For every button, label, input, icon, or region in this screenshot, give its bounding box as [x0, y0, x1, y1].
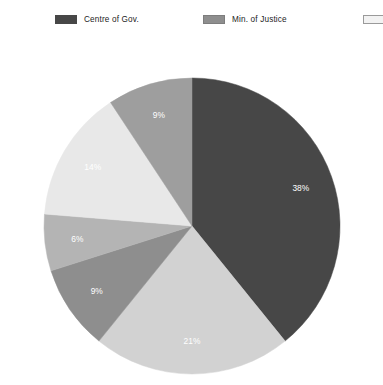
pie-slice-value-label: 21%: [184, 336, 201, 346]
legend-item-label: Centre of Gov.: [84, 15, 139, 24]
legend-item-centre-of-gov[interactable]: Centre of Gov.: [55, 12, 203, 27]
legend-swatch-icon: [203, 15, 225, 24]
pie-plot-area: 38%21%9%6%14%9%: [31, 76, 353, 376]
pie-slice-value-label: 9%: [91, 286, 104, 296]
pie-slices: [44, 78, 340, 374]
pie-chart-figure: Centre of Gov. Min. of Justice Non-depar…: [0, 0, 383, 385]
pie-slice-value-label: 9%: [153, 110, 166, 120]
legend-swatch-icon: [55, 15, 77, 24]
pie-svg: 38%21%9%6%14%9%: [31, 76, 353, 376]
chart-legend: Centre of Gov. Min. of Justice Non-depar…: [55, 12, 365, 27]
pie-slice-value-label: 6%: [71, 234, 84, 244]
legend-item-non-departmental[interactable]: Non-departmental: [363, 12, 383, 27]
legend-item-min-of-justice[interactable]: Min. of Justice: [203, 12, 363, 27]
legend-item-label: Min. of Justice: [232, 15, 287, 24]
pie-slice-value-label: 14%: [84, 162, 101, 172]
pie-slice-value-label: 38%: [292, 183, 309, 193]
legend-swatch-icon: [363, 15, 383, 24]
